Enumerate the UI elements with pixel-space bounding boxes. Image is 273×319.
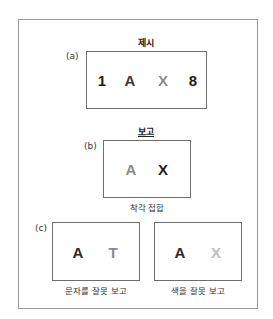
stimulus-char: A <box>123 73 137 88</box>
stimulus-char: 8 <box>186 73 200 88</box>
panel-a-tag: (a) <box>66 51 79 61</box>
panel-c-color-error-caption: 색을 잘못 보고 <box>148 284 248 296</box>
panel-b-tag: (b) <box>84 141 97 151</box>
stimulus-char: 1 <box>95 73 109 88</box>
panel-a-display-box: 1 A X 8 <box>86 51 207 109</box>
report-char: T <box>106 245 120 260</box>
report-char: A <box>71 245 85 260</box>
report-char: X <box>209 245 223 260</box>
panel-c-color-error-box: A X <box>154 222 242 281</box>
report-char: A <box>124 162 138 177</box>
panel-b-report-box: A X <box>103 140 191 198</box>
panel-b-caption: 착각 접합 <box>107 201 187 213</box>
report-char: A <box>173 245 187 260</box>
panel-b-title: 보고 <box>126 125 166 138</box>
panel-c-letter-error-box: A T <box>52 222 140 281</box>
panel-c-letter-error-caption: 문자를 잘못 보고 <box>46 284 146 296</box>
panel-a-title: 제시 <box>126 36 166 49</box>
panel-c-tag: (c) <box>35 223 47 233</box>
stimulus-char: X <box>156 73 170 88</box>
report-char: X <box>156 162 170 177</box>
